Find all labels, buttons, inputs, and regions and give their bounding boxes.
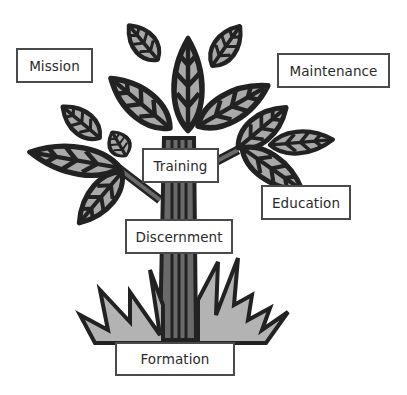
- label-mission: Mission: [16, 48, 93, 83]
- label-training: Training: [142, 148, 219, 183]
- label-maintenance: Maintenance: [277, 53, 390, 88]
- label-formation: Formation: [115, 342, 235, 376]
- label-education: Education: [261, 185, 351, 220]
- label-discernment: Discernment: [125, 219, 233, 254]
